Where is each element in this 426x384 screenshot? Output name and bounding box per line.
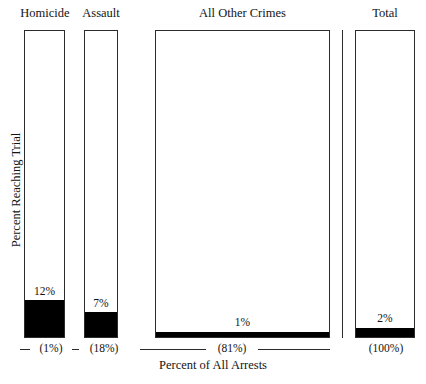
bar-value-assault: 7% bbox=[85, 297, 117, 310]
axis-tick-all-other-crimes: (81%) bbox=[206, 341, 258, 355]
x-axis-title: Percent of All Arrests bbox=[0, 358, 426, 373]
category-label-all-other-crimes: All Other Crimes bbox=[155, 6, 330, 20]
bar-value-total: 2% bbox=[356, 312, 414, 325]
bar-value-homicide: 12% bbox=[25, 285, 64, 298]
category-label-total: Total bbox=[355, 6, 415, 20]
axis-segment-4 bbox=[252, 349, 330, 350]
bar-assault: 7% bbox=[84, 30, 118, 338]
bar-homicide: 12% bbox=[24, 30, 65, 338]
axis-tick-assault: (18%) bbox=[79, 341, 129, 355]
category-label-homicide: Homicide bbox=[14, 6, 76, 20]
bar-fill-total bbox=[356, 328, 414, 337]
bar-fill-homicide bbox=[25, 300, 64, 337]
bar-fill-assault bbox=[85, 312, 117, 337]
category-label-assault: Assault bbox=[72, 6, 130, 20]
y-axis-title: Percent Reaching Trial bbox=[9, 80, 23, 300]
axis-tick-homicide: (1%) bbox=[30, 341, 72, 355]
x-axis: (1%) (18%) (81%) (100%) bbox=[0, 340, 426, 356]
funnel-bar-chart: Homicide Assault All Other Crimes Total … bbox=[0, 0, 426, 384]
axis-segment-3 bbox=[140, 349, 212, 350]
axis-tick-total: (100%) bbox=[356, 341, 416, 355]
bar-total: 2% bbox=[355, 30, 415, 338]
bar-fill-all-other-crimes bbox=[156, 332, 329, 337]
bar-value-all-other-crimes: 1% bbox=[156, 316, 329, 329]
total-divider-line bbox=[342, 30, 343, 338]
bar-all-other-crimes: 1% bbox=[155, 30, 330, 338]
